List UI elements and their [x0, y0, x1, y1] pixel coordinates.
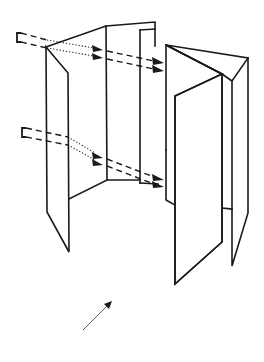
panel-front-back-edge [166, 150, 175, 205]
panel-front [166, 45, 222, 284]
folded-screen-diagram [0, 0, 264, 362]
viewing-direction-arrow [83, 301, 112, 330]
diagram-canvas [0, 0, 264, 362]
panel-left-flap [46, 47, 69, 252]
upper-sightline-arrows [17, 33, 164, 73]
lower-sightline-arrows [22, 128, 164, 188]
